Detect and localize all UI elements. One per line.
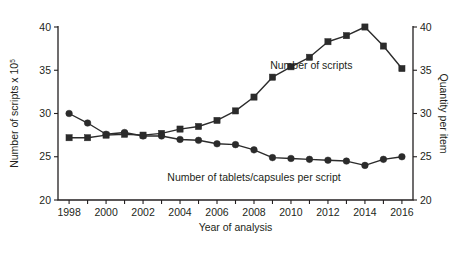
- y-ticklabel-left: 25: [39, 150, 51, 162]
- marker-square-scripts: [362, 24, 368, 30]
- marker-square-scripts: [380, 43, 386, 49]
- x-axis-title: Year of analysis: [199, 221, 273, 233]
- series-line-scripts: [69, 27, 402, 138]
- marker-circle-tablets: [399, 153, 406, 160]
- x-ticklabel: 2006: [205, 206, 229, 218]
- y-ticklabel-right: 25: [420, 150, 432, 162]
- marker-square-scripts: [269, 74, 275, 80]
- marker-circle-tablets: [177, 136, 184, 143]
- marker-square-scripts: [343, 33, 349, 39]
- marker-circle-tablets: [362, 162, 369, 169]
- marker-square-scripts: [399, 65, 405, 71]
- x-ticklabel: 2008: [242, 206, 266, 218]
- marker-circle-tablets: [84, 120, 91, 127]
- marker-circle-tablets: [232, 141, 239, 148]
- y-axis-title-left: Number of scripts x 105: [8, 59, 20, 168]
- marker-square-scripts: [232, 108, 238, 114]
- y-ticklabel-left: 30: [39, 107, 51, 119]
- y-ticklabel-right: 20: [420, 194, 432, 206]
- marker-circle-tablets: [121, 129, 128, 136]
- annotation-scripts: Number of scripts: [270, 59, 352, 71]
- marker-circle-tablets: [214, 140, 221, 147]
- y-ticklabel-left: 35: [39, 64, 51, 76]
- marker-circle-tablets: [158, 133, 165, 140]
- x-ticklabel: 2004: [168, 206, 192, 218]
- x-ticklabel: 1998: [57, 206, 81, 218]
- marker-circle-tablets: [140, 133, 147, 140]
- x-ticklabel: 2010: [279, 206, 303, 218]
- chart-svg: 2025303540202530354019982000200220042006…: [0, 0, 452, 253]
- x-ticklabel: 2016: [390, 206, 414, 218]
- marker-circle-tablets: [288, 155, 295, 162]
- marker-square-scripts: [195, 123, 201, 129]
- marker-circle-tablets: [66, 110, 73, 117]
- marker-square-scripts: [251, 94, 257, 100]
- series-line-tablets: [69, 114, 402, 166]
- chart-figure: 2025303540202530354019982000200220042006…: [0, 0, 452, 253]
- marker-circle-tablets: [251, 147, 258, 154]
- y-ticklabel-right: 30: [420, 107, 432, 119]
- marker-square-scripts: [177, 126, 183, 132]
- y-ticklabel-left: 40: [39, 21, 51, 33]
- x-ticklabel: 2014: [353, 206, 377, 218]
- annotation-tablets: Number of tablets/capsules per script: [167, 171, 340, 183]
- marker-circle-tablets: [343, 158, 350, 165]
- marker-square-scripts: [325, 39, 331, 45]
- y-ticklabel-left: 20: [39, 194, 51, 206]
- marker-square-scripts: [214, 117, 220, 123]
- y-axis-title-right: Quantity per item: [438, 74, 450, 154]
- x-ticklabel: 2012: [316, 206, 340, 218]
- marker-circle-tablets: [103, 131, 110, 138]
- marker-circle-tablets: [195, 137, 202, 144]
- marker-square-scripts: [84, 135, 90, 141]
- marker-circle-tablets: [380, 156, 387, 163]
- y-ticklabel-right: 40: [420, 21, 432, 33]
- marker-circle-tablets: [325, 157, 332, 164]
- x-ticklabel: 2000: [94, 206, 118, 218]
- y-ticklabel-right: 35: [420, 64, 432, 76]
- marker-circle-tablets: [269, 154, 276, 161]
- marker-circle-tablets: [306, 156, 313, 163]
- x-ticklabel: 2002: [131, 206, 155, 218]
- marker-square-scripts: [66, 135, 72, 141]
